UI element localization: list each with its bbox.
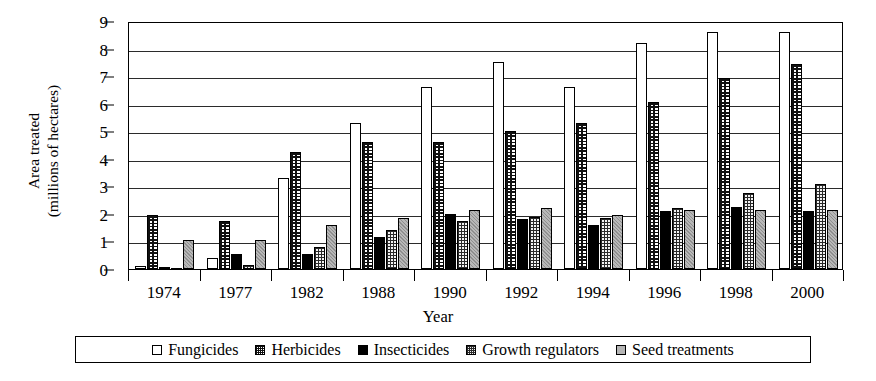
legend-item-seed-treatments[interactable]: Seed treatments [616,341,734,359]
x-tick-label: 1992 [504,283,538,303]
x-tick-mark [772,270,773,281]
bar-seed-treatments-1977 [255,240,266,269]
bar-growth-regulators-2000 [815,184,826,269]
bar-herbicides-1996 [648,102,659,269]
bar-fungicides-1998 [707,32,718,269]
x-tick-mark [271,270,272,281]
bar-herbicides-1994 [576,123,587,269]
bar-growth-regulators-1996 [672,208,683,269]
bar-seed-treatments-1988 [398,218,409,269]
bar-fungicides-1982 [278,178,289,269]
x-tick-mark [629,270,630,281]
bar-fungicides-1992 [493,62,504,269]
x-tick-mark [557,270,558,281]
bar-group [272,23,344,269]
bar-herbicides-1998 [719,78,730,270]
bar-herbicides-1974 [147,215,158,269]
bar-insecticides-1996 [660,211,671,269]
bar-group [201,23,273,269]
x-tick-label: 1998 [719,283,753,303]
y-tick-mark [104,187,114,188]
bar-growth-regulators-1974 [171,268,182,269]
bar-seed-treatments-2000 [827,210,838,269]
bar-growth-regulators-1998 [743,193,754,269]
y-tick-mark [104,159,114,160]
bar-seed-treatments-1996 [684,210,695,269]
x-tick-mark [343,270,344,281]
bar-fungicides-1996 [636,43,647,269]
legend-swatch-icon [255,345,265,355]
x-tick-label: 1977 [218,283,252,303]
legend-swatch-icon [358,345,368,355]
x-tick-mark [843,270,844,281]
bar-group [773,23,845,269]
x-tick-label: 1996 [647,283,681,303]
bar-seed-treatments-1992 [541,208,552,269]
x-tick-mark [200,270,201,281]
x-axis-title: Year [0,307,876,327]
bar-group [701,23,773,269]
legend-label: Seed treatments [632,341,734,359]
bar-insecticides-1977 [231,254,242,269]
bar-growth-regulators-1994 [600,218,611,269]
y-tick-mark [104,242,114,243]
y-tick-mark [104,132,114,133]
bar-insecticides-1998 [731,207,742,269]
bar-group [415,23,487,269]
chart-legend: FungicidesHerbicidesInsecticidesGrowth r… [75,336,811,363]
y-tick-mark [104,22,114,23]
bar-herbicides-1990 [433,142,444,269]
x-tick-label: 1990 [433,283,467,303]
legend-label: Fungicides [168,341,238,359]
bar-herbicides-2000 [791,64,802,269]
legend-swatch-icon [466,345,476,355]
x-tick-label: 1974 [147,283,181,303]
legend-item-growth-regulators[interactable]: Growth regulators [466,341,599,359]
bar-fungicides-1977 [207,258,218,269]
bar-fungicides-2000 [779,32,790,269]
y-tick-mark [104,104,114,105]
bar-group [129,23,201,269]
bar-herbicides-1982 [290,152,301,269]
y-axis-title-line1: Area treated [24,85,43,218]
x-tick-mark [414,270,415,281]
bar-growth-regulators-1977 [243,265,254,269]
bar-fungicides-1974 [135,266,146,269]
legend-item-herbicides[interactable]: Herbicides [255,341,340,359]
bar-insecticides-1994 [588,225,599,269]
y-axis-title: Area treated (millions of hectares) [14,16,72,286]
bar-group [558,23,630,269]
bar-fungicides-1990 [421,87,432,269]
plot-area [128,22,843,270]
legend-label: Insecticides [374,341,450,359]
bar-seed-treatments-1982 [326,225,337,269]
legend-label: Herbicides [271,341,340,359]
y-tick-mark [104,77,114,78]
bar-herbicides-1992 [505,131,516,269]
x-tick-mark [700,270,701,281]
bar-seed-treatments-1998 [755,210,766,269]
y-tick-mark [104,49,114,50]
x-tick-label: 1988 [361,283,395,303]
bar-growth-regulators-1992 [529,217,540,269]
bar-growth-regulators-1982 [314,247,325,269]
bar-group [344,23,416,269]
x-tick-label: 2000 [790,283,824,303]
bar-seed-treatments-1974 [183,240,194,269]
bar-insecticides-2000 [803,211,814,269]
bar-group [630,23,702,269]
x-tick-label: 1994 [576,283,610,303]
y-tick-mark [104,270,114,271]
bar-insecticides-1982 [302,254,313,269]
bar-chart: Area treated (millions of hectares) 0123… [0,0,876,381]
bar-insecticides-1992 [517,219,528,269]
legend-item-fungicides[interactable]: Fungicides [152,341,238,359]
y-axis-title-line2: (millions of hectares) [43,85,62,218]
legend-label: Growth regulators [482,341,599,359]
bar-growth-regulators-1990 [457,221,468,269]
legend-item-insecticides[interactable]: Insecticides [358,341,450,359]
bar-seed-treatments-1994 [612,215,623,269]
bar-seed-treatments-1990 [469,210,480,269]
bar-insecticides-1990 [445,214,456,269]
bar-herbicides-1988 [362,142,373,269]
